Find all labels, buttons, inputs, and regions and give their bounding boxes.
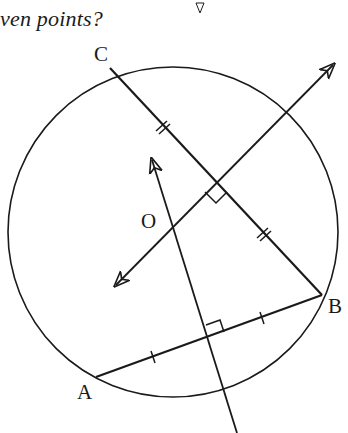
- arrow-down-icon: [196, 3, 204, 13]
- circumcircle-construction-figure: [0, 0, 348, 433]
- label-O: O: [141, 211, 156, 232]
- perpendicular-bisector-AB: [152, 160, 237, 433]
- label-A: A: [77, 382, 92, 403]
- label-C: C: [94, 44, 108, 65]
- double-tick-mark-upper: [156, 121, 170, 134]
- segment-CB: [110, 68, 322, 295]
- label-B: B: [328, 296, 342, 317]
- circumcircle: [8, 67, 338, 397]
- perpendicular-bisector-CB: [116, 65, 333, 285]
- question-caption: ven points?: [0, 6, 103, 32]
- right-angle-mark-AB: [206, 320, 224, 332]
- segment-AB: [96, 295, 322, 377]
- right-angle-mark-CB: [205, 192, 227, 203]
